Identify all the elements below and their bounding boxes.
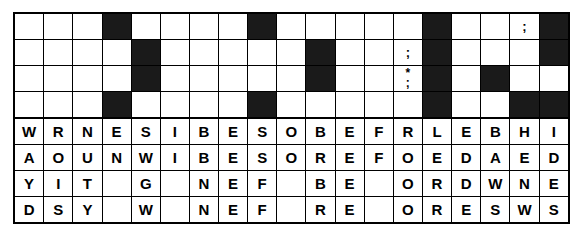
- cell-r4-c7[interactable]: [219, 92, 248, 119]
- letter-cell[interactable]: B: [481, 118, 510, 145]
- cell-r4-c6[interactable]: [189, 92, 218, 119]
- letter-cell[interactable]: F: [248, 197, 277, 224]
- cell-r4-c16[interactable]: [481, 92, 510, 119]
- cell-r2-c16[interactable]: [481, 40, 510, 66]
- letter-cell[interactable]: F: [364, 118, 393, 145]
- cell-r3-c1[interactable]: [44, 66, 73, 92]
- letter-cell[interactable]: Y: [14, 171, 44, 197]
- letter-cell[interactable]: [102, 171, 131, 197]
- cell-r2-c11[interactable]: [335, 40, 364, 66]
- cell-r1-c7[interactable]: [219, 13, 248, 40]
- letter-cell[interactable]: E: [102, 118, 131, 145]
- cell-r3-c5[interactable]: [160, 66, 189, 92]
- cell-r3-c9[interactable]: [277, 66, 306, 92]
- letter-cell[interactable]: E: [452, 197, 481, 224]
- cell-r1-c6[interactable]: [189, 13, 218, 40]
- letter-cell[interactable]: U: [73, 145, 102, 171]
- letter-cell[interactable]: O: [277, 145, 306, 171]
- cell-r4-c10[interactable]: [306, 92, 335, 119]
- cell-r3-c12[interactable]: [364, 66, 393, 92]
- cell-r3-c8[interactable]: [248, 66, 277, 92]
- letter-cell[interactable]: O: [44, 145, 73, 171]
- cell-r1-c12[interactable]: [364, 13, 393, 40]
- letter-cell[interactable]: E: [335, 197, 364, 224]
- letter-cell[interactable]: T: [73, 171, 102, 197]
- letter-cell[interactable]: E: [219, 171, 248, 197]
- letter-cell[interactable]: E: [219, 118, 248, 145]
- letter-cell[interactable]: R: [393, 118, 422, 145]
- letter-cell[interactable]: I: [160, 145, 189, 171]
- letter-cell[interactable]: E: [510, 145, 539, 171]
- letter-cell[interactable]: N: [189, 171, 218, 197]
- letter-cell[interactable]: H: [510, 118, 539, 145]
- letter-cell[interactable]: D: [452, 145, 481, 171]
- cell-r1-c15[interactable]: [452, 13, 481, 40]
- letter-cell[interactable]: E: [219, 197, 248, 224]
- cell-r2-c0[interactable]: [14, 40, 44, 66]
- mark-cell-r2-c13[interactable]: ;: [393, 40, 422, 66]
- cell-r2-c8[interactable]: [248, 40, 277, 66]
- cell-r3-c7[interactable]: [219, 66, 248, 92]
- cell-r4-c15[interactable]: [452, 92, 481, 119]
- letter-cell[interactable]: W: [131, 197, 160, 224]
- cell-r3-c2[interactable]: [73, 66, 102, 92]
- cell-r2-c1[interactable]: [44, 40, 73, 66]
- cell-r2-c6[interactable]: [189, 40, 218, 66]
- letter-cell[interactable]: [364, 171, 393, 197]
- letter-cell[interactable]: I: [160, 118, 189, 145]
- cell-r4-c1[interactable]: [44, 92, 73, 119]
- cell-r1-c9[interactable]: [277, 13, 306, 40]
- letter-cell[interactable]: O: [277, 118, 306, 145]
- letter-cell[interactable]: N: [189, 197, 218, 224]
- cell-r4-c11[interactable]: [335, 92, 364, 119]
- letter-cell[interactable]: S: [481, 197, 510, 224]
- cell-r2-c12[interactable]: [364, 40, 393, 66]
- cell-r2-c17[interactable]: [510, 40, 539, 66]
- letter-cell[interactable]: F: [248, 171, 277, 197]
- cell-r3-c18[interactable]: [539, 66, 569, 92]
- letter-cell[interactable]: S: [44, 197, 73, 224]
- letter-cell[interactable]: W: [131, 145, 160, 171]
- cell-r4-c0[interactable]: [14, 92, 44, 119]
- cell-r4-c5[interactable]: [160, 92, 189, 119]
- cell-r2-c9[interactable]: [277, 40, 306, 66]
- cell-r1-c1[interactable]: [44, 13, 73, 40]
- letter-cell[interactable]: R: [422, 171, 451, 197]
- letter-cell[interactable]: E: [335, 118, 364, 145]
- letter-cell[interactable]: N: [73, 118, 102, 145]
- cell-r3-c17[interactable]: [510, 66, 539, 92]
- letter-cell[interactable]: W: [510, 197, 539, 224]
- letter-cell[interactable]: A: [14, 145, 44, 171]
- letter-cell[interactable]: W: [481, 171, 510, 197]
- letter-cell[interactable]: S: [539, 197, 569, 224]
- letter-cell[interactable]: W: [14, 118, 44, 145]
- letter-cell[interactable]: L: [422, 118, 451, 145]
- mark-cell-r1-c17[interactable]: ;: [510, 13, 539, 40]
- cell-r2-c2[interactable]: [73, 40, 102, 66]
- cell-r1-c2[interactable]: [73, 13, 102, 40]
- cell-r2-c7[interactable]: [219, 40, 248, 66]
- letter-cell[interactable]: N: [102, 145, 131, 171]
- cell-r1-c13[interactable]: [393, 13, 422, 40]
- cell-r3-c15[interactable]: [452, 66, 481, 92]
- letter-cell[interactable]: A: [481, 145, 510, 171]
- letter-cell[interactable]: I: [44, 171, 73, 197]
- letter-cell[interactable]: E: [452, 118, 481, 145]
- letter-cell[interactable]: E: [422, 145, 451, 171]
- cell-r3-c0[interactable]: [14, 66, 44, 92]
- cell-r3-c11[interactable]: [335, 66, 364, 92]
- cell-r4-c13[interactable]: [393, 92, 422, 119]
- letter-cell[interactable]: R: [306, 145, 335, 171]
- letter-cell[interactable]: S: [248, 145, 277, 171]
- letter-cell[interactable]: O: [393, 171, 422, 197]
- letter-cell[interactable]: B: [189, 145, 218, 171]
- letter-cell[interactable]: [102, 197, 131, 224]
- cell-r1-c5[interactable]: [160, 13, 189, 40]
- letter-cell[interactable]: B: [306, 171, 335, 197]
- cell-r1-c0[interactable]: [14, 13, 44, 40]
- letter-cell[interactable]: E: [335, 171, 364, 197]
- cell-r2-c15[interactable]: [452, 40, 481, 66]
- letter-cell[interactable]: G: [131, 171, 160, 197]
- cell-r4-c9[interactable]: [277, 92, 306, 119]
- letter-cell[interactable]: S: [131, 118, 160, 145]
